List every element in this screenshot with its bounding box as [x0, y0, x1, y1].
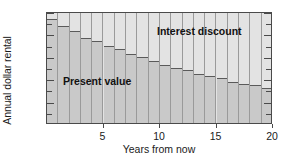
- bar-segment-present-value: [205, 76, 215, 123]
- y-tick: [266, 69, 271, 70]
- bar-segment-present-value: [183, 70, 193, 123]
- y-tick: [266, 91, 271, 92]
- x-tick-label: 15: [204, 130, 228, 142]
- y-tick: [47, 58, 54, 59]
- y-axis-title: Annual dollar rental: [0, 0, 14, 161]
- y-tick: [47, 69, 52, 70]
- bar-segment-present-value: [149, 61, 159, 123]
- bar-segment-present-value: [137, 57, 147, 123]
- chart-figure: Annual dollar rental Present value Inter…: [0, 0, 286, 161]
- x-tick: [159, 124, 160, 128]
- y-tick: [264, 80, 271, 81]
- bar-column: [58, 13, 69, 123]
- bar-segment-present-value: [160, 65, 170, 123]
- x-tick-label: 20: [260, 130, 284, 142]
- bar-segment-present-value: [239, 84, 249, 123]
- series-label-interest-discount: Interest discount: [157, 25, 242, 37]
- bar-segment-present-value: [126, 54, 136, 123]
- y-tick: [47, 103, 54, 104]
- bar-segment-present-value: [228, 82, 238, 123]
- y-tick: [266, 114, 271, 115]
- y-tick: [47, 35, 54, 36]
- y-tick: [264, 13, 271, 14]
- y-tick: [47, 13, 54, 14]
- bar-segment-present-value: [217, 78, 227, 123]
- x-tick-label: 10: [147, 130, 171, 142]
- bar-column: [115, 13, 126, 123]
- y-tick: [47, 80, 54, 81]
- y-tick: [266, 47, 271, 48]
- bar-segment-present-value: [171, 68, 181, 123]
- plot-area: Present value Interest discount: [46, 12, 272, 124]
- y-tick: [266, 24, 271, 25]
- bar-column: [104, 13, 115, 123]
- x-axis-ticks: 5101520: [46, 124, 272, 142]
- y-tick: [47, 47, 52, 48]
- y-tick: [264, 58, 271, 59]
- bar-column: [81, 13, 92, 123]
- bar-column: [250, 13, 261, 123]
- x-tick: [216, 124, 217, 128]
- x-tick-label: 5: [91, 130, 115, 142]
- y-tick: [264, 35, 271, 36]
- bar-column: [137, 13, 148, 123]
- bar-column: [47, 13, 58, 123]
- bar-column: [70, 13, 81, 123]
- y-tick: [47, 24, 52, 25]
- y-tick: [47, 114, 52, 115]
- bar-column: [92, 13, 103, 123]
- bar-column: [262, 13, 272, 123]
- y-tick: [47, 91, 52, 92]
- bar-segment-present-value: [194, 74, 204, 123]
- x-tick: [272, 124, 273, 128]
- y-tick: [264, 103, 271, 104]
- bar-segment-present-value: [262, 88, 272, 123]
- series-label-present-value: Present value: [63, 75, 131, 87]
- bar-column: [126, 13, 137, 123]
- x-tick: [103, 124, 104, 128]
- x-axis-title: Years from now: [46, 143, 272, 155]
- bar-segment-present-value: [250, 85, 260, 123]
